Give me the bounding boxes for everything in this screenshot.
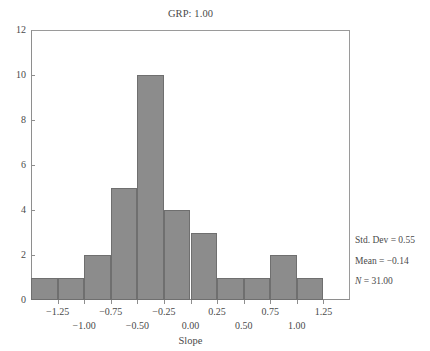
x-axis-tick-label: 0.75 (262, 307, 280, 317)
x-axis-tick-mark (270, 300, 271, 304)
histogram-bar (191, 233, 218, 301)
x-axis-tick-label: −0.75 (99, 307, 122, 317)
histogram-figure: GRP: 1.00 024681012 −1.25−0.75−0.250.250… (0, 0, 430, 351)
stats-std-dev: Std. Dev = 0.55 (355, 236, 430, 246)
x-axis-tick-label: −1.00 (73, 321, 96, 331)
y-axis-tick-label: 0 (2, 295, 26, 305)
x-axis-tick-mark (297, 300, 298, 304)
x-axis-tick-label: −0.50 (126, 321, 149, 331)
y-axis-tick-label: 2 (2, 250, 26, 260)
y-axis-tick-mark (31, 165, 35, 166)
x-axis-tick-label: −0.25 (152, 307, 175, 317)
y-axis-tick-mark (31, 255, 35, 256)
x-axis-tick-mark (137, 300, 138, 304)
x-axis-tick-mark (111, 300, 112, 304)
x-axis-tick-mark (191, 300, 192, 304)
y-axis-tick-label: 6 (2, 160, 26, 170)
y-axis-tick-mark (31, 210, 35, 211)
x-axis-tick-mark (164, 300, 165, 304)
histogram-bar (58, 278, 85, 301)
stats-mean: Mean = −0.14 (355, 257, 430, 267)
stats-annotation: Std. Dev = 0.55 Mean = −0.14 N = 31.00 (355, 236, 430, 287)
x-axis-tick-label: 0.50 (235, 321, 253, 331)
histogram-bar (244, 278, 271, 301)
y-axis-tick-label: 10 (2, 70, 26, 80)
stats-n: N = 31.00 (355, 277, 430, 287)
y-axis-tick-label: 12 (2, 25, 26, 35)
y-axis-tick-mark (31, 120, 35, 121)
bars-layer (31, 30, 350, 300)
histogram-bar (31, 278, 58, 301)
y-axis-tick-label: 4 (2, 205, 26, 215)
x-axis-tick-label: −1.25 (46, 307, 69, 317)
histogram-bar (84, 255, 111, 300)
stats-n-value: = 31.00 (361, 276, 392, 286)
x-axis-tick-mark (217, 300, 218, 304)
x-axis-tick-label: 0.25 (208, 307, 226, 317)
x-axis-tick-label: 1.00 (288, 321, 306, 331)
histogram-bar (111, 188, 138, 301)
histogram-bar (297, 278, 324, 301)
x-axis-tick-label: 1.25 (315, 307, 333, 317)
x-axis-tick-mark (244, 300, 245, 304)
histogram-bar (217, 278, 244, 301)
chart-title: GRP: 1.00 (31, 8, 350, 19)
y-axis-tick-mark (31, 75, 35, 76)
histogram-bar (164, 210, 191, 300)
x-axis-title: Slope (31, 335, 350, 346)
x-axis-tick-mark (84, 300, 85, 304)
x-axis-tick-mark (323, 300, 324, 304)
x-axis-tick-label: 0.00 (182, 321, 200, 331)
histogram-bar (137, 75, 164, 300)
histogram-bar (270, 255, 297, 300)
y-axis-tick-label: 8 (2, 115, 26, 125)
x-axis-tick-mark (58, 300, 59, 304)
